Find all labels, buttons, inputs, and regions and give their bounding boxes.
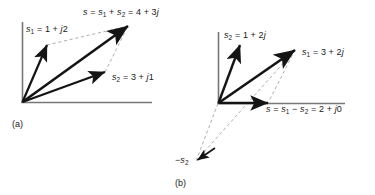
panel-a-caption: (a): [12, 119, 23, 129]
panel-b-vector-s1: [219, 50, 296, 103]
panel-b-neg-s2-label: −s2: [175, 156, 189, 165]
panel-b-s2-label: s2 = 1 + 2j: [224, 31, 266, 40]
panel-b-s1-label: s1 = 3 + 2j: [302, 48, 344, 57]
panel-a-sum-label: s = s1 + s2 = 4 + 3j: [83, 8, 159, 17]
panel-b-difference-label: s = s1 − s2 = 2 + j0: [266, 105, 342, 114]
panel-a-s1-label: s1 = 1 + j2: [26, 25, 68, 34]
complex-plane-vector-figure: s1 = 1 + j2 s = s1 + s2 = 4 + 3j s2 = 3 …: [0, 0, 375, 195]
panel-a-s2-label: s2 = 3 + j1: [112, 73, 154, 82]
panel-a-group: [21, 22, 152, 103]
panel-a-vector-s2: [23, 72, 106, 102]
panel-b-dashed-origin-to-negs2: [196, 104, 218, 162]
panel-b-caption: (b): [175, 178, 186, 188]
